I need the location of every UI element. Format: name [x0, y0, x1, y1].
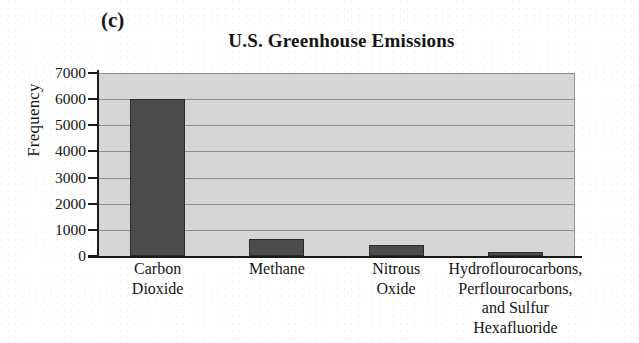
x-label-line: Dioxide [53, 279, 263, 299]
y-tick-label: 7000 [26, 65, 86, 81]
bar [369, 245, 424, 256]
bar [130, 99, 185, 256]
y-tick-label: 2000 [26, 196, 86, 212]
bar [249, 239, 304, 256]
x-axis-line [88, 256, 582, 258]
y-tick-mark [88, 177, 98, 179]
y-tick-label-wrap: 2000 [24, 196, 86, 212]
y-tick-label: 6000 [26, 91, 86, 107]
y-tick-mark [88, 124, 98, 126]
y-tick-label: 5000 [26, 117, 86, 133]
x-label-line: and Sulfur [410, 298, 620, 318]
y-tick-label-wrap: 4000 [24, 143, 86, 159]
chart-title: U.S. Greenhouse Emissions [0, 30, 639, 52]
y-tick-label-wrap: 1000 [24, 222, 86, 238]
y-tick-label-wrap: 7000 [24, 65, 86, 81]
y-tick-mark [88, 150, 98, 152]
x-label-line: Hexafluoride [410, 318, 620, 338]
y-tick-label-wrap: 6000 [24, 91, 86, 107]
x-label-line: Perflourocarbons, [410, 279, 620, 299]
y-tick-mark [88, 255, 98, 257]
x-label-line: Hydroflourocarbons, [410, 259, 620, 279]
y-tick-mark [88, 229, 98, 231]
x-axis-label: Hydroflourocarbons,Perflourocarbons,and … [410, 259, 620, 337]
gridline [98, 73, 574, 74]
plot-area [98, 73, 575, 256]
y-tick-label-wrap: 3000 [24, 170, 86, 186]
y-tick-label: 1000 [26, 222, 86, 238]
y-tick-label: 3000 [26, 170, 86, 186]
y-tick-mark [88, 203, 98, 205]
y-tick-mark [88, 98, 98, 100]
y-tick-label-wrap: 5000 [24, 117, 86, 133]
y-tick-mark [88, 72, 98, 74]
y-tick-label: 4000 [26, 143, 86, 159]
